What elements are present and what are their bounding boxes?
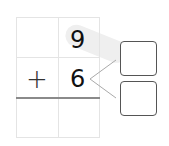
answer-box-1[interactable] <box>120 41 157 76</box>
answer-box-2[interactable] <box>120 81 157 116</box>
